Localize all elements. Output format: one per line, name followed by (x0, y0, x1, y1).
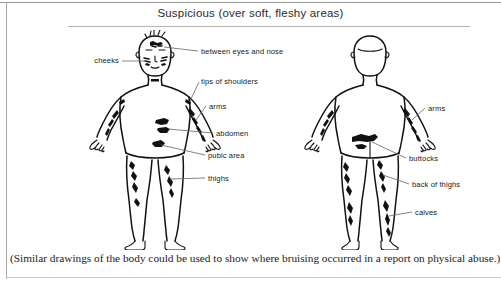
label-between-eyes-and-nose: between eyes and nose (201, 47, 283, 56)
bruise-between-eyes-and-nose (150, 41, 163, 47)
panel-top-border (0, 2, 501, 3)
back-torso-outline (312, 85, 428, 137)
figure-caption: (Similar drawings of the body could be u… (10, 252, 490, 264)
back-side-right (399, 97, 405, 153)
body-map-figure-panel: Suspicious (over soft, fleshy areas) (0, 0, 501, 281)
front-leg-right (175, 156, 183, 241)
page-title: Suspicious (over soft, fleshy areas) (0, 7, 501, 19)
front-leg-left (127, 156, 135, 241)
label-abdomen: abdomen (216, 129, 248, 138)
back-hand-left (305, 140, 319, 152)
front-hand-left (90, 140, 104, 152)
leader-back-of-thighs (383, 175, 409, 184)
label-arms-front: arms (209, 102, 226, 111)
back-leg-left-inner (358, 160, 367, 241)
back-leg-right (390, 156, 398, 241)
bruise-pubic-area (152, 140, 165, 147)
label-tips-of-shoulders: tips of shoulders (201, 77, 258, 86)
front-hip-line (126, 153, 184, 158)
bruise-neck (151, 79, 159, 82)
bruise-calves (347, 200, 391, 237)
leader-tips-of-shoulders (190, 82, 199, 101)
leader-calves (389, 212, 412, 216)
back-head-outline (354, 36, 386, 76)
front-leg-right-inner (158, 160, 167, 241)
front-mouth (151, 67, 159, 68)
back-foot-right (381, 241, 398, 250)
leader-abdomen (168, 129, 213, 133)
label-back-of-thighs: back of thighs (412, 180, 460, 189)
front-foot-right (165, 241, 185, 250)
back-figure: arms buttocks back of thighs calves (305, 36, 461, 250)
front-torso-outline (97, 85, 213, 137)
label-cheeks: cheeks (94, 56, 119, 65)
label-thighs-front: thighs (208, 174, 229, 183)
label-buttocks: buttocks (409, 154, 438, 163)
front-nose (155, 56, 157, 62)
back-figure-labels: arms buttocks back of thighs calves (372, 104, 460, 217)
back-side-left (335, 97, 341, 153)
front-leg-left-inner (143, 160, 152, 241)
bruise-abdomen (155, 118, 170, 133)
front-foot-left (125, 241, 145, 250)
panel-bottom-border (6, 277, 501, 278)
title-divider (68, 26, 470, 27)
front-side-left (120, 97, 126, 153)
back-hand-right (421, 140, 435, 152)
body-diagram: cheeks between eyes and nose tips of sho… (0, 30, 501, 250)
body-diagram-svg: cheeks between eyes and nose tips of sho… (0, 30, 501, 250)
bruise-tips-of-shoulders (119, 99, 191, 105)
leader-between-eyes-and-nose (164, 47, 198, 51)
back-hairline (358, 49, 382, 51)
front-figure-labels: cheeks between eyes and nose tips of sho… (94, 47, 283, 183)
leader-thighs-front (170, 178, 205, 179)
label-arms-back: arms (428, 104, 445, 113)
bruise-buttocks (352, 134, 378, 149)
label-pubic-area: pubic area (208, 151, 245, 160)
back-foot-left (342, 241, 359, 250)
label-calves: calves (415, 208, 437, 217)
front-figure: cheeks between eyes and nose tips of sho… (90, 30, 284, 250)
front-hand-right (206, 140, 220, 152)
front-side-right (184, 97, 190, 153)
